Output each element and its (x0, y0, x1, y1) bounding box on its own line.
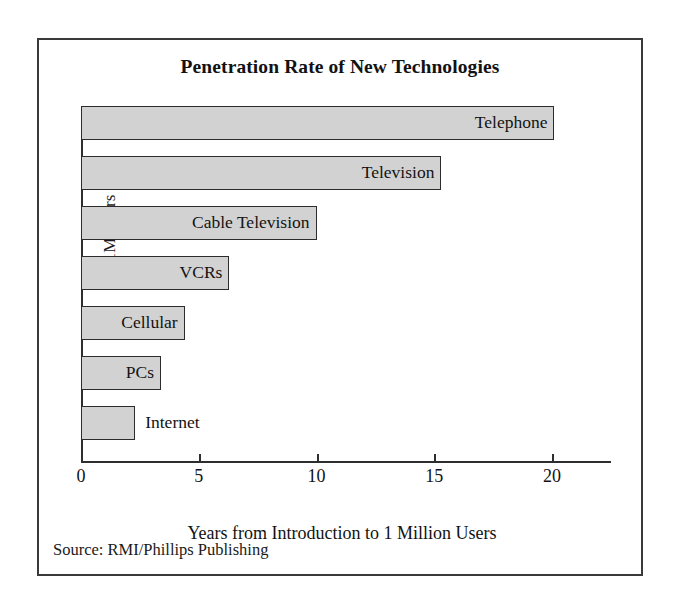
bar: VCRs (81, 256, 229, 290)
bar: PCs (81, 356, 161, 390)
bar-row: PCs (81, 356, 611, 390)
x-tick (81, 454, 83, 462)
bar-row: Cellular (81, 306, 611, 340)
bar: Television (81, 156, 441, 190)
figure-frame: Penetration Rate of New Technologies 1M … (37, 38, 643, 576)
bar: Cable Television (81, 206, 317, 240)
x-tick-label: 5 (179, 466, 219, 487)
bar-label: Internet (145, 414, 199, 432)
bar-row: VCRs (81, 256, 611, 290)
x-tick-label: 0 (61, 466, 101, 487)
bar-label: Telephone (475, 114, 548, 132)
bar-row: Television (81, 156, 611, 190)
x-tick-label: 20 (532, 466, 572, 487)
bar-label: PCs (126, 364, 154, 382)
bar-label: VCRs (180, 264, 223, 282)
bar-label: Cellular (121, 314, 177, 332)
x-tick-label: 10 (297, 466, 337, 487)
bar (81, 406, 135, 440)
source-note: Source: RMI/Phillips Publishing (53, 540, 268, 560)
x-axis-line (81, 461, 611, 463)
x-tick-label: 15 (414, 466, 454, 487)
bar-row: Telephone (81, 106, 611, 140)
bar: Cellular (81, 306, 185, 340)
bar-label: Television (362, 164, 435, 182)
chart-title: Penetration Rate of New Technologies (39, 56, 641, 78)
plot-area: 1M Users TelephoneTelevisionCable Televi… (81, 106, 611, 461)
bar-row: Cable Television (81, 206, 611, 240)
bar: Telephone (81, 106, 554, 140)
x-tick (199, 454, 201, 462)
x-tick (552, 454, 554, 462)
bar-row: Internet (81, 406, 611, 440)
x-tick (434, 454, 436, 462)
x-tick (317, 454, 319, 462)
bar-label: Cable Television (192, 214, 310, 232)
